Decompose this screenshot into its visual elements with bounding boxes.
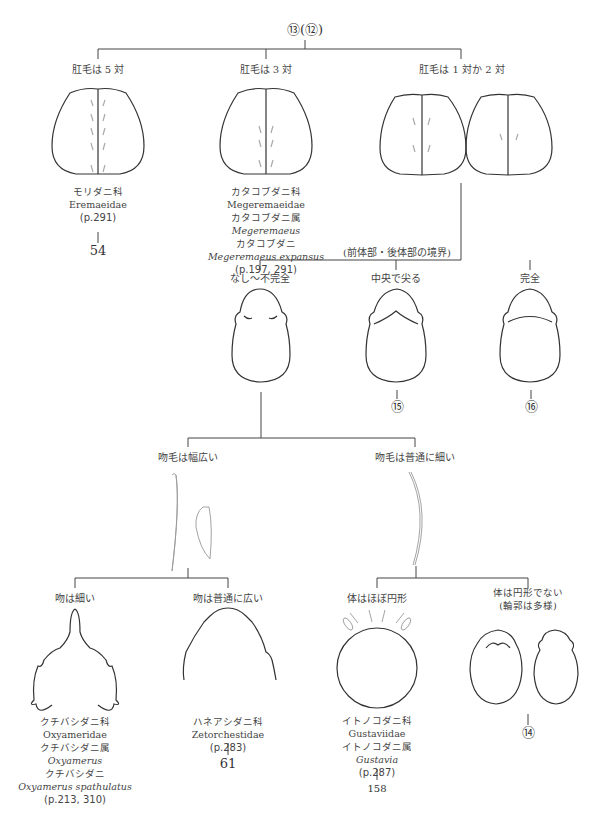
taxon-megeremaeidae: カタコブダニ科 Megeremaeidae カタコブダニ属 Megeremaeu…	[208, 185, 324, 276]
criterion-rostral-setae-wide: 吻毛は幅広い	[158, 451, 218, 464]
taxon-gustaviidae: イトノコダニ科 Gustaviidae イトノコダニ属 Gustavia (p.…	[342, 714, 412, 779]
root-node-label: ⑬(⑫)	[287, 23, 323, 36]
identification-key-figure: ⑬(⑫) 肛毛は 5 対 肛毛は 3 対 肛毛は 1 対か 2 対 モリダニ科 …	[0, 0, 610, 822]
taxon-zetorchestidae: ハネアシダニ科 Zetorchestidae (p.283)	[192, 715, 264, 754]
criterion-boundary-none: なし〜不完全	[230, 272, 290, 285]
next-node-61: 61	[220, 757, 237, 770]
next-node-54: 54	[90, 244, 107, 257]
genus-latin: Megeremaeus	[208, 224, 324, 237]
criterion-boundary-pointed: 中央で尖る	[371, 272, 421, 285]
next-node-14: ⑭	[522, 726, 535, 739]
family-jp: モリダニ科	[69, 185, 127, 198]
criterion-boundary-complete: 完全	[520, 272, 540, 285]
next-node-15: ⑮	[391, 400, 404, 413]
boundary-heading: (前体部・後体部の境界)	[343, 246, 451, 259]
criterion-anal-setae-1-2: 肛毛は 1 対か 2 対	[419, 63, 504, 76]
genus-jp: カタコブダニ属	[208, 211, 324, 224]
species-latin: Megeremaeus expansus	[208, 250, 324, 263]
family-latin: Eremaeidae	[69, 198, 127, 211]
page-ref: (p.291)	[69, 211, 127, 224]
key-tree-lines	[0, 0, 610, 822]
criterion-body-round: 体はほぼ円形	[347, 592, 407, 605]
criterion-rostrum-narrow: 吻は細い	[55, 592, 95, 605]
criterion-anal-setae-5: 肛毛は 5 対	[72, 63, 125, 76]
criterion-anal-setae-3: 肛毛は 3 対	[240, 63, 293, 76]
criterion-rostral-setae-narrow: 吻毛は普通に細い	[375, 451, 455, 464]
taxon-eremaeidae: モリダニ科 Eremaeidae (p.291)	[69, 185, 127, 224]
next-node-158: 158	[367, 782, 386, 795]
species-jp: カタコブダニ	[208, 237, 324, 250]
next-node-16: ⑯	[525, 400, 538, 413]
criterion-body-not-round: 体は円形でない (輪郭は多様)	[493, 586, 563, 612]
family-jp: カタコブダニ科	[208, 185, 324, 198]
taxon-oxyameridae: クチバシダニ科 Oxyameridae クチバシダニ属 Oxyamerus クチ…	[18, 715, 132, 806]
family-latin: Megeremaeidae	[208, 198, 324, 211]
criterion-rostrum-normal: 吻は普通に広い	[193, 592, 263, 605]
